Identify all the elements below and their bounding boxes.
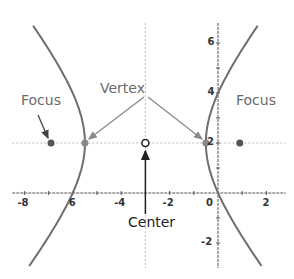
label-focus-left: Focus [21,92,61,108]
hyperbola-diagram [0,0,294,279]
label-focus-right: Focus [236,92,276,108]
focus-right-point [236,140,243,147]
vertex-left-arrow [89,97,144,139]
focus-left-arrow [38,115,48,138]
vertex-right-arrow [148,97,202,139]
focus-left-point [48,140,55,147]
x-tick-label: 2 [262,197,269,208]
vertex-left-point [81,140,88,147]
x-tick-label: 6 [69,197,76,208]
hyperbola-left-branch [29,26,85,266]
x-tick-label: 0 [206,197,213,208]
y-tick-label: 2 [207,136,214,147]
label-center: Center [128,214,175,230]
y-tick-label: 6 [208,36,215,47]
x-tick-label: -4 [114,197,125,208]
y-tick-label: 4 [208,86,215,97]
label-vertex: Vertex [100,80,145,96]
center-point [142,140,149,147]
y-tick-label: -2 [201,236,212,247]
x-tick-label: -8 [17,197,28,208]
hyperbola-right-branch [206,26,262,266]
x-tick-label: -2 [163,197,174,208]
